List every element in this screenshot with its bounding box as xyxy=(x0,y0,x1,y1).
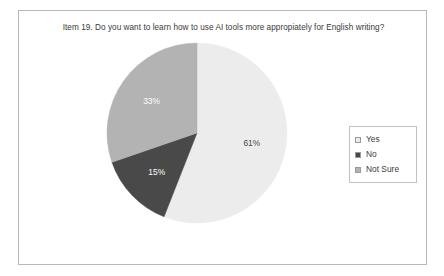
legend-swatch-not-sure xyxy=(355,167,361,173)
pie-svg: 61%15%33% xyxy=(105,41,289,225)
legend-item-no[interactable]: No xyxy=(355,147,412,162)
pie-slice-group xyxy=(107,43,287,223)
pie-label-yes: 61% xyxy=(243,138,260,148)
legend-swatch-no xyxy=(355,152,361,158)
legend-label-no: No xyxy=(366,150,377,158)
pie-label-no: 15% xyxy=(148,167,165,177)
legend: Yes No Not Sure xyxy=(349,126,417,183)
pie-chart: 61%15%33% xyxy=(105,41,289,225)
pie-label-not-sure: 33% xyxy=(143,96,160,106)
legend-item-not-sure[interactable]: Not Sure xyxy=(355,162,412,177)
legend-swatch-yes xyxy=(355,137,361,143)
legend-item-yes[interactable]: Yes xyxy=(355,132,412,147)
legend-label-yes: Yes xyxy=(366,135,380,143)
legend-label-not-sure: Not Sure xyxy=(366,165,399,173)
chart-title: Item 19. Do you want to learn how to use… xyxy=(19,23,428,32)
chart-frame: Item 19. Do you want to learn how to use… xyxy=(18,10,427,265)
